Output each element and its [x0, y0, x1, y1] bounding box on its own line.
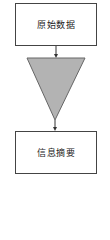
- summary-box: 信息摘要: [15, 131, 97, 174]
- summary-label: 信息摘要: [37, 146, 75, 159]
- funnel-triangle-icon: [27, 58, 85, 120]
